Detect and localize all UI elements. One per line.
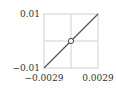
y-tick-label-bottom: −0.01 (12, 63, 40, 73)
x-tick-label-right: 0.0029 (82, 73, 114, 83)
open-circle-marker (68, 38, 73, 43)
y-tick-label-top: 0.01 (20, 9, 40, 19)
chart: 0.01 −0.01 −0.0029 0.0029 (0, 0, 116, 90)
x-tick-label-left: −0.0029 (24, 73, 63, 83)
chart-svg: 0.01 −0.01 −0.0029 0.0029 (0, 0, 116, 90)
